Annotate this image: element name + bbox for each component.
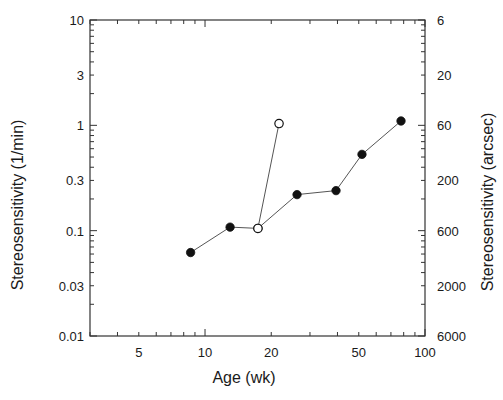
y-right-tick-label: 6000 xyxy=(437,329,466,344)
y-tick-label: 0.01 xyxy=(59,329,84,344)
stereosensitivity-chart: 5102050100 10310.30.10.030.01 6206020060… xyxy=(0,0,503,400)
x-tick-label: 20 xyxy=(264,345,278,360)
x-axis-title: Age (wk) xyxy=(212,369,275,386)
open-data-point xyxy=(275,119,283,127)
open-data-point xyxy=(254,224,262,232)
filled-data-point xyxy=(186,248,194,256)
y-tick-label: 0.03 xyxy=(59,279,84,294)
y-right-tick-label: 200 xyxy=(437,173,459,188)
y-right-tick-label: 6 xyxy=(437,13,444,28)
y-right-tick-label: 60 xyxy=(437,118,451,133)
y-tick-label: 3 xyxy=(77,68,84,83)
filled-data-point xyxy=(397,117,405,125)
filled-data-point xyxy=(358,150,366,158)
y-axis-tick-labels: 10310.30.10.030.01 xyxy=(59,13,84,344)
filled-data-point xyxy=(293,190,301,198)
plot-frame xyxy=(90,20,425,336)
y-right-tick-label: 600 xyxy=(437,224,459,239)
y-tick-label: 0.3 xyxy=(66,173,84,188)
x-tick-label: 10 xyxy=(198,345,212,360)
x-tick-label: 50 xyxy=(352,345,366,360)
y-right-tick-label: 20 xyxy=(437,68,451,83)
filled-data-point xyxy=(226,223,234,231)
series-line-filled xyxy=(191,121,401,253)
x-tick-label: 5 xyxy=(135,345,142,360)
y-tick-label: 0.1 xyxy=(66,224,84,239)
plot-border xyxy=(90,20,425,336)
y-axis-title: Stereosensitivity (1/min) xyxy=(9,120,26,291)
x-tick-label: 100 xyxy=(414,345,436,360)
y-right-tick-label: 2000 xyxy=(437,279,466,294)
axis-ticks xyxy=(90,20,425,336)
y-right-axis-title: Stereosensitivity (arcsec) xyxy=(479,113,496,292)
x-axis-tick-labels: 5102050100 xyxy=(135,345,436,360)
filled-data-point xyxy=(332,186,340,194)
y-tick-label: 1 xyxy=(77,118,84,133)
y-tick-label: 10 xyxy=(70,13,84,28)
data-series xyxy=(186,117,405,257)
y-right-axis-tick-labels: 6206020060020006000 xyxy=(437,13,466,344)
